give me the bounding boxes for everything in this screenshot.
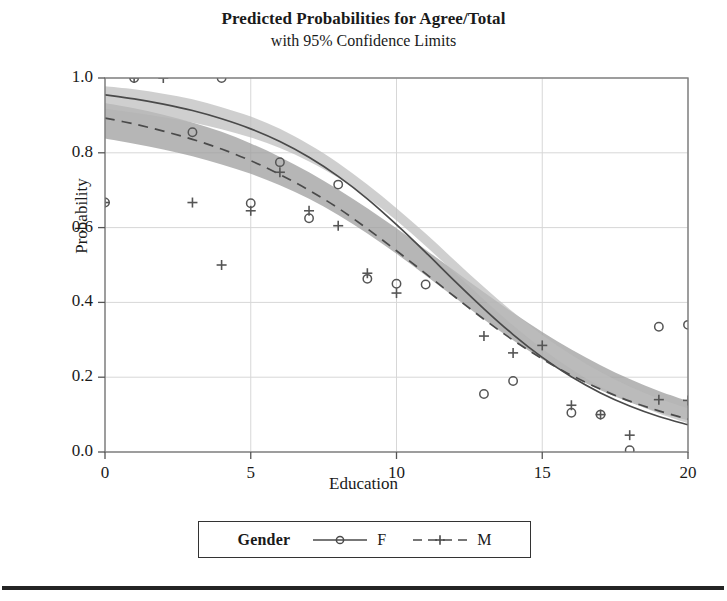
figure-panel: Predicted Probabilities for Agree/Total … (0, 0, 727, 601)
legend-label-f: F (377, 531, 386, 549)
x-tick-label: 5 (226, 463, 276, 483)
legend-label-m: M (477, 531, 491, 549)
legend-swatch-m (412, 533, 468, 547)
y-tick-label: 0.6 (38, 217, 93, 237)
x-tick-label: 15 (517, 463, 567, 483)
y-tick-label: 1.0 (38, 67, 93, 87)
y-tick-label: 0.8 (38, 142, 93, 162)
legend-swatch-f (312, 533, 368, 547)
bottom-divider (2, 586, 724, 590)
x-tick-label: 0 (80, 463, 130, 483)
y-tick-label: 0.4 (38, 291, 93, 311)
x-tick-label: 20 (663, 463, 713, 483)
legend-title: Gender (238, 531, 313, 549)
y-tick-label: 0.2 (38, 366, 93, 386)
legend-entry-f[interactable]: F (312, 531, 412, 549)
y-tick-label: 0.0 (38, 441, 93, 461)
x-tick-label: 10 (372, 463, 422, 483)
legend-entry-m[interactable]: M (412, 531, 491, 549)
plot-canvas (0, 0, 727, 601)
legend: Gender F M (198, 521, 531, 558)
plus-marker-icon (435, 535, 445, 545)
